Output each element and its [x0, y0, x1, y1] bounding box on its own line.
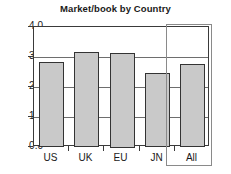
x-axis-label-eu: EU	[103, 152, 138, 163]
x-axis-label-us: US	[33, 152, 68, 163]
bar-chart: Market/book by Country 4.03.02.01.00.0 U…	[0, 0, 231, 174]
bar-us	[39, 62, 64, 147]
x-axis-label-jn: JN	[139, 152, 174, 163]
x-axis-tick-mark	[103, 146, 104, 151]
x-axis-label-all: All	[174, 152, 209, 163]
x-axis-tick-mark	[174, 146, 175, 151]
y-axis-tick-mark	[28, 146, 33, 147]
plot-area	[33, 26, 209, 146]
x-axis-tick-mark	[139, 146, 140, 151]
bar-eu	[110, 53, 135, 148]
bar-uk	[74, 52, 99, 147]
bar-all	[180, 64, 205, 147]
bar-jn	[145, 73, 170, 147]
chart-title: Market/book by Country	[0, 3, 231, 14]
x-axis-tick-mark	[68, 146, 69, 151]
x-axis-label-uk: UK	[68, 152, 103, 163]
